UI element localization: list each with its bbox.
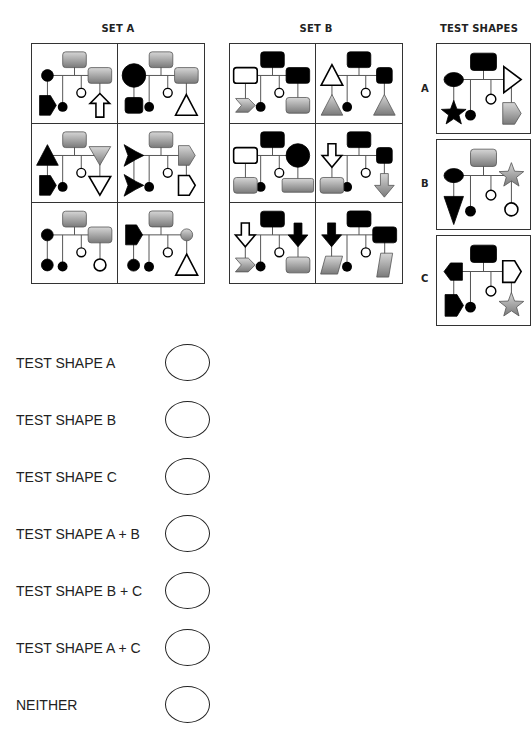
white-dot-icon [163, 248, 172, 257]
black-triangle-down-tall-icon [444, 196, 463, 224]
white-triangle-right-icon [504, 67, 521, 93]
white-dot-icon [163, 88, 172, 97]
grey-chevron-icon [236, 98, 256, 112]
option-label-test-shape-b: TEST SHAPE B [16, 412, 116, 428]
black-rect-icon [347, 132, 371, 148]
black-circle-icon [128, 259, 140, 271]
black-rect-small-icon [377, 68, 393, 84]
black-dot-icon [465, 110, 476, 121]
pedigree-diagram [316, 203, 402, 283]
test-shape-a [436, 43, 531, 134]
white-dot-icon [486, 94, 496, 104]
pedigree-diagram [316, 124, 402, 203]
option-bubble-test-shape-b[interactable] [165, 401, 210, 438]
option-bubble-test-shape-a[interactable] [165, 344, 210, 381]
set-b-panel [230, 44, 316, 124]
grey-rect-icon [471, 149, 497, 166]
grey-rect-icon [63, 52, 87, 68]
grey-triangle-icon [374, 95, 396, 116]
black-dot-icon [256, 102, 266, 112]
white-dot-icon [77, 88, 86, 97]
option-bubble-test-shape-a-b[interactable] [165, 515, 210, 552]
set-a-panel [118, 203, 204, 283]
test-shape-b [436, 139, 531, 230]
option-label-neither: NEITHER [16, 697, 77, 713]
black-pentagon-icon [40, 175, 57, 195]
grey-triangle-icon [321, 95, 343, 116]
black-pentagon-icon [126, 225, 143, 245]
white-dot-icon [275, 168, 284, 177]
grey-pentagon-icon [179, 145, 196, 165]
black-rect-icon [261, 212, 285, 228]
test-shape-c-label: C [421, 273, 428, 284]
black-rounded-square-icon [125, 97, 143, 113]
option-bubble-test-shape-c[interactable] [165, 458, 210, 495]
white-dot-icon [486, 286, 496, 296]
test-shape-c [436, 235, 531, 326]
test-shape-b-label: B [421, 178, 429, 189]
black-rect-icon [261, 52, 285, 68]
white-circle-icon [94, 259, 106, 271]
black-rect-small-icon [377, 147, 393, 163]
set-a-grid [31, 43, 205, 284]
black-dot-icon [342, 262, 352, 272]
black-rect-icon [373, 227, 397, 243]
option-label-test-shape-a-c: TEST SHAPE A + C [16, 640, 141, 656]
black-circle-icon [42, 70, 54, 82]
grey-rect-icon [286, 97, 310, 113]
black-arrow-down-icon [322, 223, 342, 247]
option-bubble-test-shape-a-c[interactable] [165, 629, 210, 666]
option-label-test-shape-a-b: TEST SHAPE A + B [16, 526, 140, 542]
black-rect-icon [261, 132, 285, 148]
black-dot-icon [58, 102, 68, 112]
white-rect-icon [234, 147, 258, 163]
option-bubble-neither[interactable] [165, 686, 210, 723]
white-dot-icon [163, 168, 172, 177]
black-arrow-down-icon [288, 223, 308, 247]
grey-parallelogram-icon [321, 256, 343, 274]
grey-rect-icon [63, 212, 87, 228]
black-rect-icon [286, 68, 310, 84]
white-pentagon-icon [179, 175, 196, 195]
black-dot-icon [465, 206, 476, 217]
pedigree-diagram [230, 124, 315, 203]
black-pentagon-icon [40, 96, 57, 116]
white-pentagon-icon [503, 261, 521, 283]
grey-rect-icon [149, 52, 173, 68]
grey-rect-wide-icon [282, 178, 313, 192]
grey-star5-icon [499, 292, 524, 315]
white-arrow-down-icon [322, 143, 342, 167]
white-triangle-down-icon [89, 176, 111, 195]
pedigree-diagram [230, 203, 315, 283]
set-b-title: SET B [229, 23, 403, 34]
set-a-panel [32, 124, 118, 204]
white-dot-icon [361, 168, 370, 177]
black-dot-icon [144, 182, 154, 192]
black-circle-icon [41, 259, 53, 271]
option-label-test-shape-b-c: TEST SHAPE B + C [16, 583, 142, 599]
black-rect-icon [347, 52, 371, 68]
test-shape-a-label: A [421, 83, 429, 94]
option-bubble-test-shape-b-c[interactable] [165, 572, 210, 609]
black-dot-icon [58, 262, 68, 272]
grey-rect-icon [149, 132, 173, 148]
black-ellipse-icon [444, 169, 463, 183]
white-dot-icon [275, 88, 284, 97]
pedigree-diagram [32, 203, 117, 283]
white-dot-icon [77, 168, 86, 177]
black-circle-big-icon [122, 64, 146, 88]
pedigree-diagram [118, 203, 204, 283]
pedigree-diagram [118, 44, 204, 123]
grey-rect-icon [149, 211, 173, 227]
black-rect-icon [471, 53, 497, 70]
white-rect-icon [234, 68, 258, 84]
white-triangle-icon [176, 95, 198, 116]
black-dot-icon [256, 262, 266, 272]
pedigree-diagram [437, 140, 530, 229]
black-circle-big-icon [286, 143, 310, 167]
set-b-panel [316, 44, 402, 124]
grey-chevron-icon [235, 258, 255, 272]
white-dot-icon [361, 248, 370, 257]
white-triangle-icon [176, 255, 198, 276]
black-dot-icon [144, 102, 154, 112]
